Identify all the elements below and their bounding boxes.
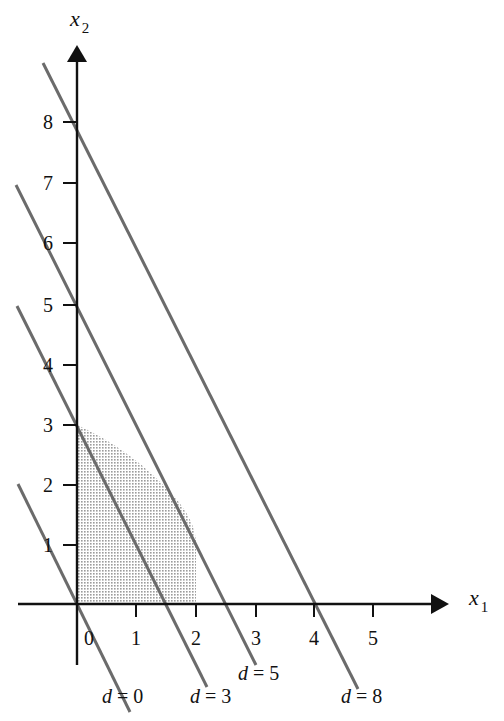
x2-axis-arrow-icon (67, 45, 87, 62)
x1-axis-arrow-icon (431, 594, 449, 614)
x-tick-4: 4 (309, 627, 319, 649)
y-tick-3: 3 (43, 414, 53, 436)
label-d3: d = 3 (190, 685, 231, 707)
x1-axis-label: x1 (468, 585, 488, 615)
x-tick-1: 1 (131, 627, 141, 649)
y-tick-1: 1 (43, 534, 53, 556)
label-d8: d = 8 (341, 685, 382, 707)
feasible-region (77, 425, 196, 604)
lp-isoprofit-diagram: 0 1 2 3 4 5 1 2 3 4 5 6 7 8 x2 x1 d = 0 … (0, 0, 504, 721)
y-tick-5: 5 (43, 294, 53, 316)
y-tick-7: 7 (43, 172, 53, 194)
y-tick-8: 8 (43, 111, 53, 133)
x-tick-0: 0 (84, 627, 94, 649)
label-d5: d = 5 (238, 662, 279, 684)
y-tick-6: 6 (43, 232, 53, 254)
y-tick-4: 4 (43, 354, 53, 376)
x-tick-2: 2 (191, 627, 201, 649)
label-d0: d = 0 (102, 685, 143, 707)
x-tick-5: 5 (368, 627, 378, 649)
y-tick-2: 2 (43, 474, 53, 496)
x2-axis-label: x2 (69, 6, 89, 36)
x-tick-3: 3 (251, 627, 261, 649)
